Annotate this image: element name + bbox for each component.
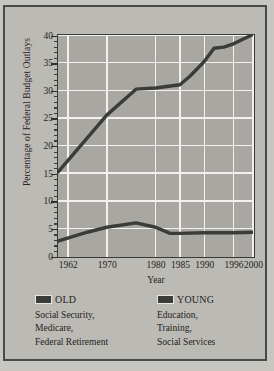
- legend-detail-line: Federal Retirement: [35, 337, 147, 347]
- legend-detail-line: Training,: [157, 323, 269, 333]
- legend-title-old: OLD: [55, 294, 76, 305]
- x-axis-tick-label: 1985: [171, 260, 190, 270]
- legend-title-young: YOUNG: [177, 294, 214, 305]
- x-axis-tick-label: 1990: [195, 260, 214, 270]
- y-axis-tick-labels: 0510152025303540: [27, 34, 53, 258]
- chart-area: Percentage of Federal Budget Outlays 051…: [5, 7, 265, 275]
- plot-area: [57, 34, 255, 258]
- chart-legend: OLD Social Security, Medicare, Federal R…: [5, 293, 265, 359]
- x-axis-title: Year: [57, 275, 255, 285]
- figure-frame: Percentage of Federal Budget Outlays 051…: [3, 5, 267, 361]
- series-line-young: [58, 223, 253, 241]
- x-axis-tick-label: 2000: [244, 260, 263, 270]
- series-line-old: [58, 35, 253, 172]
- legend-swatch-young-icon: [157, 295, 174, 304]
- legend-entry-old: OLD Social Security, Medicare, Federal R…: [35, 293, 147, 347]
- legend-swatch-old-icon: [35, 295, 52, 304]
- x-axis-tick-label: 1962: [59, 260, 78, 270]
- y-axis-tick-label: 0: [27, 252, 53, 262]
- x-axis-tick-label: 1970: [98, 260, 117, 270]
- legend-detail-line: Medicare,: [35, 323, 147, 333]
- x-axis-tick-label: 1980: [147, 260, 166, 270]
- y-axis-tick-label: 10: [27, 196, 53, 206]
- legend-head-old: OLD: [35, 293, 147, 306]
- y-axis-tick-label: 40: [27, 31, 53, 41]
- legend-entry-young: YOUNG Education, Training, Social Servic…: [157, 293, 269, 347]
- y-axis-tick-label: 30: [27, 86, 53, 96]
- legend-head-young: YOUNG: [157, 293, 269, 306]
- legend-detail-line: Education,: [157, 310, 269, 320]
- y-axis-tick-label: 35: [27, 58, 53, 68]
- y-axis-tick-label: 25: [27, 113, 53, 123]
- x-axis-tick-label: 1996: [225, 260, 244, 270]
- legend-detail-line: Social Services: [157, 337, 269, 347]
- y-axis-tick-label: 5: [27, 224, 53, 234]
- y-axis-tick-label: 20: [27, 141, 53, 151]
- series-lines: [58, 35, 253, 256]
- x-axis-tick-labels: 1962197019801985199019962000: [57, 260, 255, 276]
- y-axis-tick-label: 15: [27, 169, 53, 179]
- legend-detail-line: Social Security,: [35, 310, 147, 320]
